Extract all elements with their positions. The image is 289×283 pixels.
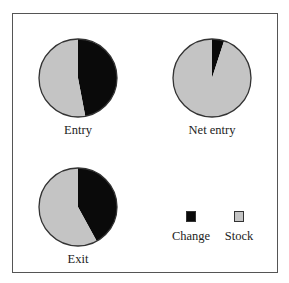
pie-net-entry-label: Net entry (162, 123, 262, 138)
change-swatch (186, 211, 196, 222)
pie-entry-label: Entry (28, 123, 128, 138)
stock-swatch (234, 211, 244, 222)
pie-slice-change (78, 39, 117, 116)
pie-exit-label: Exit (28, 252, 128, 267)
legend-item-change: Change (168, 211, 214, 244)
legend: Change Stock (168, 211, 268, 251)
pie-exit-block: Exit (28, 166, 128, 267)
pie-exit (37, 166, 119, 248)
pie-net-entry-block: Net entry (162, 37, 262, 138)
legend-label-change: Change (168, 229, 214, 244)
legend-item-stock: Stock (219, 211, 259, 244)
pie-net-entry (171, 37, 253, 119)
pie-entry (37, 37, 119, 119)
legend-label-stock: Stock (219, 229, 259, 244)
pie-entry-block: Entry (28, 37, 128, 138)
